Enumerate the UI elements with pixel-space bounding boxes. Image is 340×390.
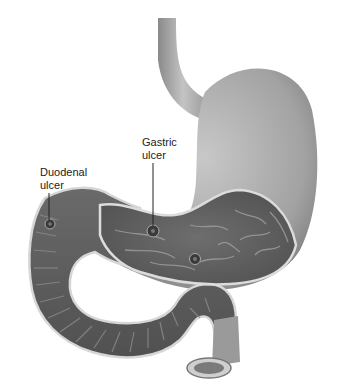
stomach-diagram: Duodenal ulcer Gastric ulcer (0, 0, 340, 390)
gastric-ulcer-marker (147, 225, 159, 237)
gastric-label-line1: Gastric (142, 136, 177, 149)
duodenal-ulcer-label: Duodenal ulcer (40, 166, 87, 192)
gastric-label-line2: ulcer (142, 149, 177, 162)
stomach-illustration (0, 0, 340, 390)
gastric-ulcer-label: Gastric ulcer (142, 136, 177, 162)
duodenal-label-line2: ulcer (40, 179, 87, 192)
duodenal-label-line1: Duodenal (40, 166, 87, 179)
duodenal-ulcer-marker (45, 219, 55, 229)
gastric-ulcer-marker-2 (190, 254, 201, 265)
